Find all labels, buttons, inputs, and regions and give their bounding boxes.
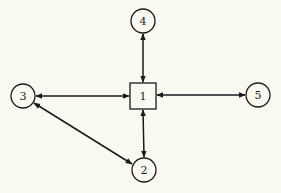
node-3-label: 3 [20,90,27,103]
node-1: 1 [130,83,156,109]
node-4: 4 [131,9,155,33]
node-1-label: 1 [140,90,147,103]
edge-3-2 [34,103,132,164]
edge-1-2 [143,110,144,157]
node-5-label: 5 [255,89,262,102]
network-diagram: 1 2 3 4 5 [0,0,281,193]
node-5: 5 [246,83,270,107]
node-2-label: 2 [141,164,148,177]
node-3: 3 [11,84,35,108]
node-4-label: 4 [140,15,147,28]
node-2: 2 [132,158,156,182]
